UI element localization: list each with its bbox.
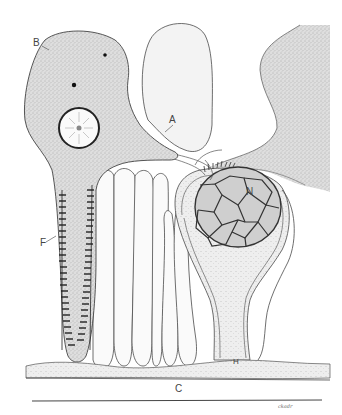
granule-2 xyxy=(103,53,107,57)
label-F: F xyxy=(40,238,46,248)
label-N: N xyxy=(246,187,253,197)
cell-cluster-N xyxy=(195,167,281,247)
label-B: B xyxy=(33,38,40,48)
lower-line xyxy=(32,400,322,401)
artist-signature: ckadr xyxy=(278,403,292,409)
label-A: A xyxy=(169,115,176,125)
base-layer xyxy=(26,360,330,379)
illustration-canvas xyxy=(0,0,342,415)
granule-1 xyxy=(72,83,76,87)
label-H: H xyxy=(233,358,239,366)
pale-cell-top xyxy=(142,24,212,152)
label-C: C xyxy=(175,384,182,394)
